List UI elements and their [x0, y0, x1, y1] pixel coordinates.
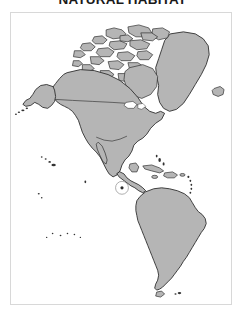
region-aleutian-islands: [15, 108, 28, 115]
region-hispaniola: [164, 172, 178, 178]
region-alaska: [23, 85, 56, 109]
region-central-america: [117, 172, 146, 193]
region-cuba: [143, 165, 164, 173]
region-falkland-islands: [174, 292, 181, 295]
region-jamaica: [152, 175, 158, 178]
map-frame: [10, 12, 232, 305]
pacific-islands: [38, 180, 86, 238]
region-tierra-del-fuego: [156, 291, 165, 297]
region-greenland: [156, 32, 210, 111]
galapagos-islands-marker[interactable]: [116, 181, 129, 194]
region-puerto-rico: [180, 173, 185, 176]
page-title: NATURAL HABITAT: [0, 0, 245, 8]
figure-container: NATURAL HABITAT: [0, 0, 245, 318]
region-south-america: [136, 188, 206, 290]
region-bahamas: [156, 155, 165, 166]
region-yucatan-peninsula: [129, 163, 139, 172]
region-lesser-antilles: [187, 176, 192, 194]
americas-map: [11, 13, 231, 304]
region-hawaii: [41, 156, 56, 166]
region-iceland: [212, 86, 224, 96]
